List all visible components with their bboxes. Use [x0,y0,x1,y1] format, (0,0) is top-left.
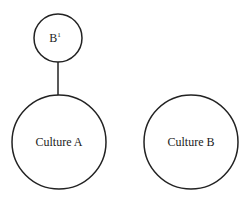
node-culture-a: Culture A [12,95,106,189]
node-culture-b: Culture B [144,95,238,189]
node-culture-b-label: Culture B [168,135,215,149]
node-b1: B1 [34,14,82,62]
diagram-canvas: B1 Culture A Culture B [0,0,250,200]
node-culture-a-label: Culture A [36,135,83,149]
node-b1-label: B1 [49,31,61,45]
